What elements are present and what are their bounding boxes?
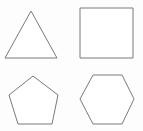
pentagon-shape (9, 76, 58, 124)
hexagon-shape (80, 75, 134, 124)
shape-canvas (0, 0, 143, 131)
shape-figure: Triangle Square Pentagon Hexagon (0, 0, 143, 131)
triangle-shape (5, 11, 57, 58)
square-shape (80, 8, 133, 58)
